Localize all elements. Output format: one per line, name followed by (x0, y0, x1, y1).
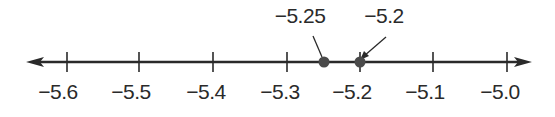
tick-label: −5.2 (332, 80, 371, 104)
tick-label: −5.0 (480, 80, 519, 104)
pointer-line-52 (364, 37, 386, 56)
tick-label: −5.6 (38, 80, 77, 104)
tick-label: −5.1 (405, 80, 444, 104)
point-label-52: −5.2 (364, 4, 403, 28)
tick-label: −5.4 (186, 80, 225, 104)
point-label-525: −5.25 (275, 4, 326, 28)
tick-label: −5.5 (111, 80, 150, 104)
tick-label: −5.3 (260, 80, 299, 104)
pointer-line-525 (313, 36, 322, 57)
point-525 (319, 57, 330, 68)
point-52 (355, 57, 366, 68)
